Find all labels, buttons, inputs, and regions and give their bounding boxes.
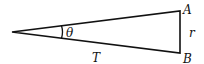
triangle-diagram: θ A B r T bbox=[0, 0, 204, 64]
vertex-a-label: A bbox=[182, 3, 192, 17]
vertex-b-label: B bbox=[182, 52, 192, 64]
angle-arc bbox=[62, 26, 63, 38]
triangle bbox=[12, 11, 180, 53]
side-r-label: r bbox=[189, 26, 196, 40]
side-t-label: T bbox=[92, 51, 101, 64]
theta-label: θ bbox=[66, 26, 74, 40]
